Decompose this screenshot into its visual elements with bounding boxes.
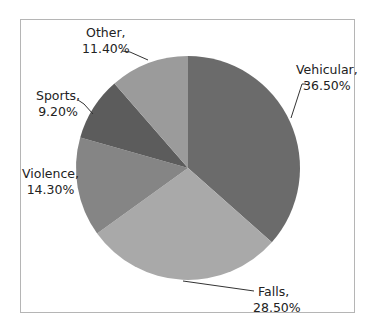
label-other-value: 11.40%: [82, 41, 130, 57]
label-vehicular-name: Vehicular,: [296, 62, 358, 78]
label-falls-name: Falls,: [253, 284, 301, 300]
label-sports-value: 9.20%: [36, 104, 80, 120]
leader-line-sports: [78, 100, 93, 114]
leader-line-falls: [183, 281, 254, 291]
label-violence: Violence, 14.30%: [22, 166, 79, 198]
label-sports: Sports, 9.20%: [36, 88, 80, 120]
label-falls: Falls, 28.50%: [253, 284, 301, 316]
label-falls-value: 28.50%: [253, 300, 301, 316]
label-violence-value: 14.30%: [22, 182, 79, 198]
label-other-name: Other,: [82, 25, 130, 41]
label-vehicular-value: 36.50%: [296, 78, 358, 94]
label-violence-name: Violence,: [22, 166, 79, 182]
label-sports-name: Sports,: [36, 88, 80, 104]
label-vehicular: Vehicular, 36.50%: [296, 62, 358, 94]
label-other: Other, 11.40%: [82, 25, 130, 57]
